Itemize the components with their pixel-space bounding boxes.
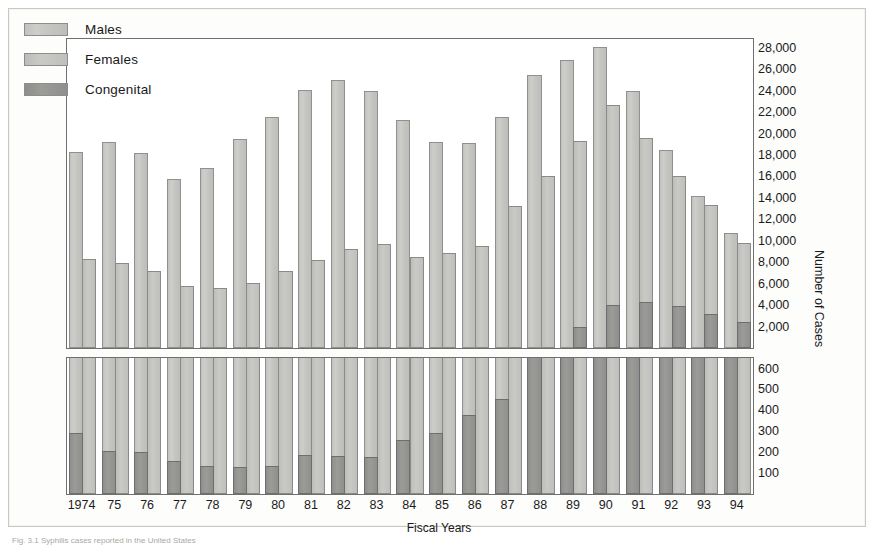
bar-males-86 (462, 143, 476, 348)
bar-males-88 (527, 75, 541, 348)
bar-females-79 (246, 283, 260, 348)
bar-congenital-93 (691, 358, 705, 494)
bar-females-lower-87 (508, 358, 522, 494)
bar-females-lower-79 (246, 358, 260, 494)
bar-congenital-upper-92 (672, 306, 686, 348)
bar-congenital-upper-93 (704, 314, 718, 348)
bar-females-lower-75 (115, 358, 129, 494)
x-axis-tick-labels: 1974757677787980818283848586878889909192… (66, 498, 754, 518)
bar-congenital-1974 (69, 433, 83, 494)
chart-legend: Males Females Congenital (24, 14, 152, 104)
x-axis-title: Fiscal Years (0, 521, 878, 535)
bar-females-lower-93 (704, 358, 718, 494)
lower-panel-bars (67, 358, 753, 494)
legend-label-congenital: Congenital (85, 82, 152, 97)
bar-congenital-88 (527, 358, 541, 494)
legend-swatch-males-icon (24, 23, 68, 36)
bar-females-lower-82 (344, 358, 358, 494)
x-tick-94: 94 (717, 498, 756, 512)
bar-males-91 (626, 91, 640, 348)
bar-congenital-92 (659, 358, 673, 494)
bar-females-lower-84 (410, 358, 424, 494)
bar-congenital-90 (593, 358, 607, 494)
upper-panel (66, 38, 754, 349)
legend-swatch-congenital-icon (24, 83, 68, 96)
legend-swatch-females-icon (24, 53, 68, 66)
bar-congenital-80 (265, 466, 279, 494)
y-tick-upper-12000: 12,000 (758, 212, 796, 226)
legend-label-males: Males (85, 22, 122, 37)
bar-males-87 (495, 117, 509, 348)
y-tick-upper-14000: 14,000 (758, 191, 796, 205)
y-tick-upper-4000: 4,000 (758, 298, 789, 312)
y-tick-lower-200: 200 (758, 445, 779, 459)
bar-congenital-upper-91 (639, 302, 653, 348)
y-tick-lower-600: 600 (758, 362, 779, 376)
bar-males-75 (102, 142, 116, 348)
bar-congenital-75 (102, 451, 116, 494)
y-tick-upper-20000: 20,000 (758, 127, 796, 141)
bar-congenital-upper-90 (606, 305, 620, 348)
legend-item-females: Females (24, 44, 152, 74)
y-tick-upper-16000: 16,000 (758, 169, 796, 183)
bar-females-lower-81 (311, 358, 325, 494)
bar-congenital-81 (298, 455, 312, 494)
y-tick-upper-6000: 6,000 (758, 277, 789, 291)
bar-congenital-upper-89 (573, 327, 587, 348)
y-tick-upper-24000: 24,000 (758, 84, 796, 98)
bar-females-86 (475, 246, 489, 348)
y-axis-title: Number of Cases (812, 250, 826, 347)
bar-males-78 (200, 168, 214, 348)
bar-females-lower-94 (737, 358, 751, 494)
bar-males-83 (364, 91, 378, 348)
bar-females-lower-83 (377, 358, 391, 494)
figure-caption: Fig. 3.1 Syphilis cases reported in the … (12, 536, 196, 545)
bar-males-84 (396, 120, 410, 348)
y-tick-upper-22000: 22,000 (758, 105, 796, 119)
bar-males-81 (298, 90, 312, 348)
plot-area (66, 38, 754, 495)
bar-congenital-78 (200, 466, 214, 494)
bar-congenital-82 (331, 456, 345, 494)
bar-females-80 (278, 271, 292, 348)
bar-females-lower-76 (147, 358, 161, 494)
bar-females-lower-80 (278, 358, 292, 494)
bar-congenital-85 (429, 433, 443, 494)
bar-females-84 (410, 257, 424, 348)
bar-congenital-94 (724, 358, 738, 494)
legend-item-males: Males (24, 14, 152, 44)
bar-males-79 (233, 139, 247, 348)
bar-females-88 (541, 176, 555, 348)
bar-females-75 (115, 263, 129, 348)
bar-females-1974 (82, 259, 96, 348)
y-tick-upper-10000: 10,000 (758, 234, 796, 248)
figure-root: Males Females Congenital 28,00026,00024,… (0, 0, 878, 551)
bar-males-80 (265, 117, 279, 348)
bar-females-89 (573, 141, 587, 348)
bar-males-89 (560, 60, 574, 348)
bar-males-92 (659, 150, 673, 348)
y-tick-upper-8000: 8,000 (758, 255, 789, 269)
y-tick-upper-26000: 26,000 (758, 62, 796, 76)
upper-panel-bars (67, 39, 753, 348)
y-tick-upper-18000: 18,000 (758, 148, 796, 162)
bar-females-lower-77 (180, 358, 194, 494)
bar-females-lower-92 (672, 358, 686, 494)
y-tick-lower-400: 400 (758, 403, 779, 417)
bar-congenital-91 (626, 358, 640, 494)
bar-females-78 (213, 288, 227, 348)
bar-males-77 (167, 179, 181, 348)
bar-females-76 (147, 271, 161, 348)
y-tick-upper-28000: 28,000 (758, 41, 796, 55)
bar-females-85 (442, 253, 456, 348)
y-tick-lower-500: 500 (758, 382, 779, 396)
bar-congenital-77 (167, 461, 181, 494)
bar-males-93 (691, 196, 705, 348)
legend-label-females: Females (85, 52, 138, 67)
bar-females-lower-88 (541, 358, 555, 494)
bar-congenital-84 (396, 440, 410, 494)
bar-congenital-upper-94 (737, 322, 751, 348)
bar-females-lower-78 (213, 358, 227, 494)
legend-item-congenital: Congenital (24, 74, 152, 104)
bar-males-94 (724, 233, 738, 348)
